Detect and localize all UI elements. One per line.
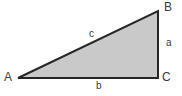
- side-label-a: a: [166, 38, 172, 48]
- vertex-label-a: A: [4, 71, 12, 83]
- side-label-b: b: [96, 81, 102, 91]
- triangle-diagram: A B C a b c: [0, 0, 182, 96]
- side-label-c: c: [89, 29, 94, 39]
- vertex-label-c: C: [162, 71, 171, 83]
- triangle-polygon: [18, 11, 158, 78]
- vertex-label-b: B: [164, 1, 172, 13]
- triangle-shape: [0, 0, 182, 96]
